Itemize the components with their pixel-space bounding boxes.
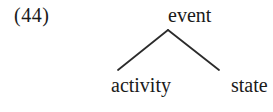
branch-edge-root-to-activity	[118, 30, 168, 70]
branch-edge-root-to-state	[168, 30, 219, 70]
tree-node-activity-label: activity	[111, 73, 171, 97]
tree-node-state-label: state	[231, 73, 268, 97]
tree-node-root-label: event	[168, 3, 211, 27]
tree-diagram-figure: (44) event activity state	[0, 0, 273, 112]
